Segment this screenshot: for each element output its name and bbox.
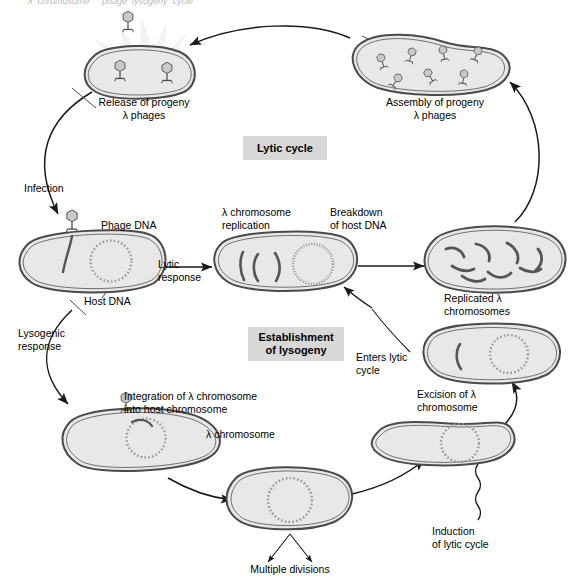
label-excision-of-lambda: Excision of λ chromosome	[417, 388, 478, 413]
label-lambda-chromosome-replication: λ chromosome replication	[222, 206, 291, 231]
arrow-lysogenic-response	[47, 310, 72, 404]
arrow-division-right	[290, 534, 312, 562]
cell-excision	[372, 422, 515, 465]
arrow-assembly-to-release	[190, 26, 350, 45]
arrow-replicated-to-assembly	[510, 82, 539, 222]
label-release-of-progeny: Release of progeny λ phages	[84, 96, 204, 121]
cell-release	[85, 11, 195, 98]
label-integration-of-lambda: Integration of λ chromosome into host ch…	[124, 390, 257, 415]
cell-divisions	[227, 467, 353, 529]
label-breakdown-of-host-dna: Breakdown of host DNA	[330, 206, 387, 231]
label-induction-of-lytic-cycle: Induction of lytic cycle	[432, 525, 489, 550]
lambda-phage-cycle-diagram: λ chromosome phage lysogeny cycle	[0, 0, 587, 588]
cell-replication	[214, 232, 357, 291]
arrow-enters-lytic-leader	[372, 309, 410, 352]
label-phage-dna: Phage DNA	[101, 219, 156, 232]
arrow-division-left	[268, 534, 290, 562]
label-enters-lytic-cycle: Enters lytic cycle	[356, 351, 407, 376]
label-assembly-of-progeny: Assembly of progeny λ phages	[370, 96, 500, 121]
label-host-dna: Host DNA	[84, 295, 131, 308]
label-lytic-response: Lytic response	[158, 258, 201, 283]
cell-assembly	[353, 35, 510, 95]
arrow-enters-lytic	[344, 287, 372, 308]
label-infection: Infection	[24, 182, 64, 195]
label-lysogenic-response: Lysogenic response	[18, 327, 65, 352]
cell-replicated	[425, 226, 566, 293]
label-lambda-chromosome: λ chromosome	[206, 428, 275, 441]
arrow-excision-to-enters-lytic	[505, 382, 517, 424]
label-replicated-lambda-chromosomes: Replicated λ chromosomes	[444, 292, 510, 317]
establishment-of-lysogeny-box: Establishment of lysogeny	[248, 327, 344, 361]
lytic-cycle-box: Lytic cycle	[243, 136, 327, 160]
arrow-divisions-to-excision	[352, 460, 424, 494]
arrow-integration-to-divisions	[168, 478, 232, 500]
cell-enters-lytic	[423, 324, 560, 384]
arrow-induction-wave	[476, 464, 481, 520]
label-multiple-divisions: Multiple divisions	[225, 563, 355, 576]
